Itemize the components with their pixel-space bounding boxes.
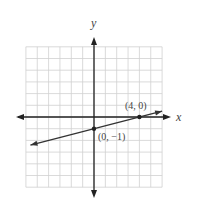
line-left-arrow-icon <box>30 141 37 146</box>
y-axis-down-arrow-icon <box>91 190 97 198</box>
line-right-arrow-icon <box>155 110 162 115</box>
axes <box>16 37 171 198</box>
y-axis-label: y <box>90 16 97 30</box>
x-axis-right-arrow-icon <box>163 114 171 120</box>
data-point <box>137 115 141 119</box>
point-label-4-0: (4, 0) <box>125 100 147 112</box>
y-axis-up-arrow-icon <box>91 37 97 45</box>
coordinate-graph: x y (4, 0) (0, −1) <box>0 0 215 203</box>
x-axis-left-arrow-icon <box>16 114 24 120</box>
x-axis-label: x <box>175 110 182 124</box>
series-line <box>30 111 162 145</box>
point-label-0-neg1: (0, −1) <box>98 131 125 143</box>
data-point <box>92 127 96 131</box>
